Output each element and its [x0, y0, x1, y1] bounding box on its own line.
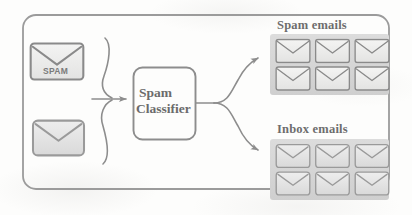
classifier-label-line2: Classifier — [136, 101, 191, 116]
spam-emails-panel — [270, 34, 389, 95]
inbox-emails-title: Inbox emails — [277, 122, 348, 137]
output-split-arrows — [196, 58, 258, 150]
input-merge-arrows — [92, 38, 126, 164]
inbox-emails-panel — [270, 139, 389, 200]
diagram-vector-layer — [0, 0, 412, 215]
figure-canvas: SPAM Spam Classifier Spam emails Inbox e… — [0, 0, 412, 215]
spam-envelope-label: SPAM — [43, 66, 68, 76]
classifier-label-line1: Spam — [139, 85, 172, 100]
spam-emails-title: Spam emails — [277, 18, 347, 33]
input-envelope-plain — [33, 121, 84, 156]
